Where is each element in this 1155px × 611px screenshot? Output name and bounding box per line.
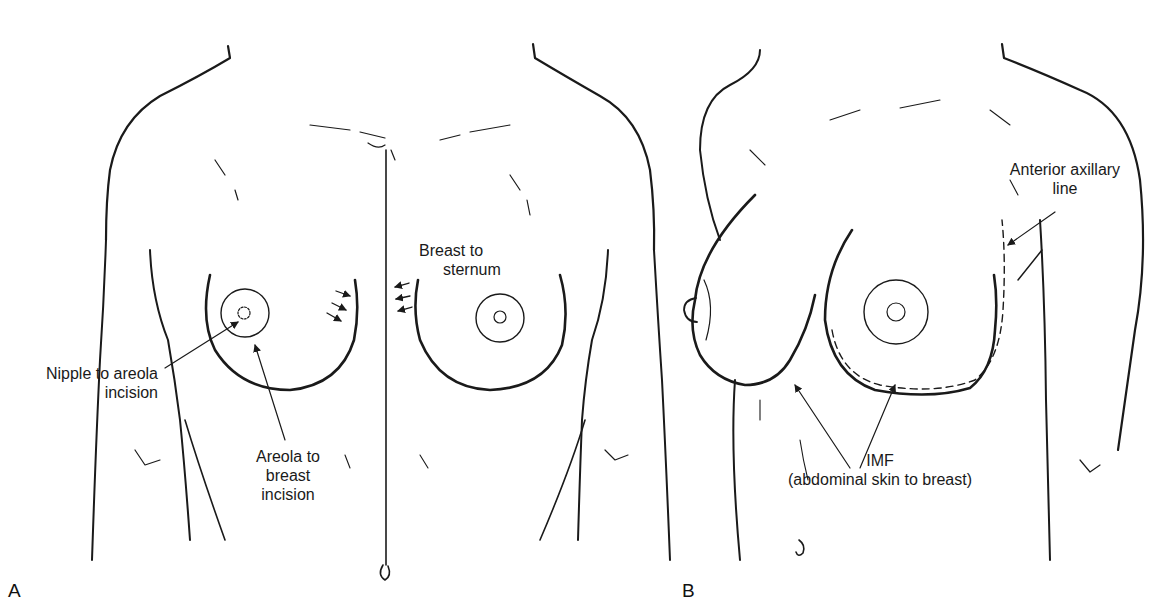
b-right-torso <box>1040 220 1050 560</box>
left-clavicle-line <box>310 125 385 138</box>
right-arm-outer <box>654 250 670 560</box>
b-right-areola <box>864 280 928 344</box>
right-clavicle-line <box>440 125 510 140</box>
left-abdomen-line <box>185 420 225 540</box>
label-line: (abdominal skin to breast) <box>760 470 1000 489</box>
breast-to-sternum-arrows <box>327 283 412 321</box>
left-nipple <box>238 307 250 319</box>
umbilicus <box>380 565 389 580</box>
right-torso-side <box>578 250 608 540</box>
sternal-notch <box>368 143 395 160</box>
axillary-leader-arrow <box>1008 212 1055 245</box>
b-left-areola <box>704 280 711 340</box>
right-areola <box>476 294 524 342</box>
label-line: Nipple to areola <box>14 364 158 383</box>
b-left-breast-contour <box>692 195 815 385</box>
label-line: Breast to <box>419 241 501 260</box>
left-pectoral-lines <box>215 160 238 200</box>
right-breast-contour <box>415 275 565 390</box>
left-elbow-mark <box>135 450 160 465</box>
b-right-breast-contour <box>825 230 996 395</box>
breast-anatomy-diagram <box>0 0 1155 611</box>
label-line: incision <box>233 485 343 504</box>
b-umbilicus <box>796 540 804 555</box>
left-breast-contour <box>206 275 357 390</box>
label-areola-to-breast: Areola to breast incision <box>233 447 343 504</box>
label-anterior-axillary-line: Anterior axillary line <box>990 160 1140 198</box>
label-line: line <box>990 179 1140 198</box>
right-pectoral-lines <box>510 175 530 215</box>
panel-a-figure <box>92 44 670 580</box>
left-neck-shoulder <box>106 46 230 240</box>
label-line: IMF <box>760 451 1000 470</box>
b-shoulder-dash <box>830 100 1010 125</box>
label-nipple-to-areola: Nipple to areola incision <box>14 364 158 402</box>
right-neck-shoulder <box>533 44 654 250</box>
nipple-leader-arrow <box>165 322 238 368</box>
right-nipple <box>494 311 506 323</box>
right-elbow-mark <box>605 450 628 460</box>
b-left-torso <box>733 380 740 560</box>
label-line: incision <box>14 383 158 402</box>
label-line: breast <box>233 466 343 485</box>
b-neck-right <box>1002 44 1143 450</box>
label-imf: IMF (abdominal skin to breast) <box>760 451 1000 489</box>
left-areola <box>221 289 269 337</box>
label-line: sternum <box>419 260 501 279</box>
panel-letter-b: B <box>682 580 695 602</box>
b-right-mark <box>1080 460 1100 472</box>
b-right-nipple <box>887 303 905 321</box>
areola-leader-arrow <box>255 345 285 440</box>
panel-letter-a: A <box>8 580 21 602</box>
label-breast-to-sternum: Breast to sternum <box>419 241 501 279</box>
b-imf-dashed <box>832 220 1004 389</box>
b-axillary-mark <box>1018 250 1042 280</box>
label-line: Anterior axillary <box>990 160 1140 179</box>
label-line: Areola to <box>233 447 343 466</box>
b-neck-left <box>700 50 760 240</box>
b-pectoral-dash <box>750 150 1018 195</box>
